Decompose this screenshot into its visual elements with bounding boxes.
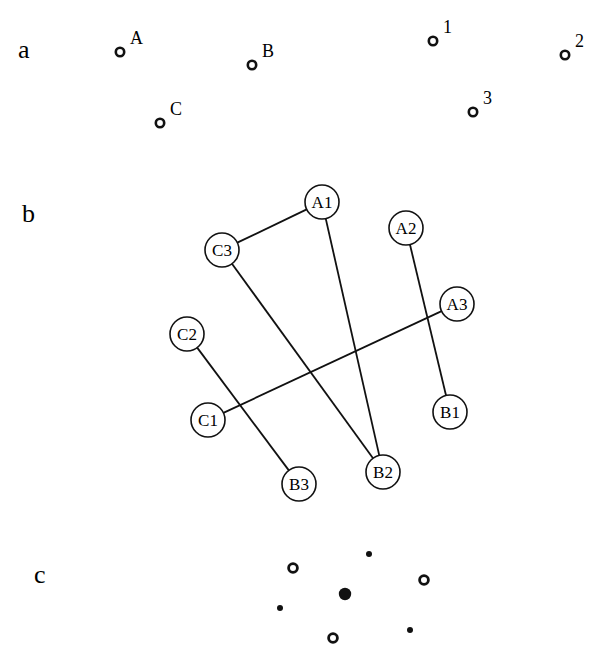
- node-label: B2: [373, 463, 393, 482]
- point-1: 1: [429, 17, 452, 45]
- edge-C3-B2: [232, 264, 373, 458]
- panel-b-nodes: A1A2A3B1B2B3C1C2C3: [170, 185, 474, 501]
- center-dot-marker-icon: [339, 588, 351, 600]
- open-circle-marker-icon: [561, 51, 569, 59]
- node-label: A3: [447, 295, 468, 314]
- open-circle-marker-icon: [156, 119, 164, 127]
- small-dot-marker-icon: [407, 627, 413, 633]
- point-2: 2: [561, 31, 584, 59]
- panel-label-b: b: [22, 199, 35, 228]
- point-label: B: [262, 41, 274, 61]
- panel-c-points: [277, 551, 428, 642]
- node-label: B3: [289, 475, 309, 494]
- open-circle-marker-icon: [248, 61, 256, 69]
- panel-a-points: ABC123: [116, 17, 584, 127]
- open-circle-marker-icon: [429, 37, 437, 45]
- node-label: C1: [198, 411, 218, 430]
- open-circle-marker-icon: [289, 564, 298, 573]
- node-A1: A1: [305, 185, 339, 219]
- figure-canvas: a b c ABC123 A1A2A3B1B2B3C1C2C3: [0, 0, 598, 664]
- node-label: A1: [312, 193, 333, 212]
- node-B3: B3: [282, 467, 316, 501]
- node-C1: C1: [191, 403, 225, 437]
- edge-A3-C1: [223, 311, 441, 413]
- open-circle-marker-icon: [329, 634, 338, 643]
- point-label: 2: [575, 31, 584, 51]
- panel-label-a: a: [18, 35, 30, 64]
- point-label: A: [130, 28, 143, 48]
- point-A: A: [116, 28, 143, 56]
- open-circle-marker-icon: [469, 108, 477, 116]
- node-label: B1: [440, 403, 460, 422]
- point-label: 3: [483, 88, 492, 108]
- small-dot-marker-icon: [366, 551, 372, 557]
- open-circle-marker-icon: [116, 48, 124, 56]
- node-label: C2: [177, 325, 197, 344]
- node-C2: C2: [170, 317, 204, 351]
- small-dot-marker-icon: [277, 605, 283, 611]
- node-label: A2: [396, 219, 417, 238]
- node-A3: A3: [440, 287, 474, 321]
- point-label: 1: [443, 17, 452, 37]
- panel-label-c: c: [34, 560, 46, 589]
- point-3: 3: [469, 88, 492, 116]
- open-circle-marker-icon: [420, 576, 429, 585]
- edge-A1-B2: [326, 219, 380, 456]
- node-label: C3: [212, 241, 232, 260]
- node-B1: B1: [433, 395, 467, 429]
- point-label: C: [170, 99, 182, 119]
- point-C: C: [156, 99, 182, 127]
- point-B: B: [248, 41, 274, 69]
- node-C3: C3: [205, 233, 239, 267]
- node-B2: B2: [366, 455, 400, 489]
- node-A2: A2: [389, 211, 423, 245]
- edge-A2-B1: [410, 245, 446, 396]
- edge-A1-C3: [237, 209, 306, 242]
